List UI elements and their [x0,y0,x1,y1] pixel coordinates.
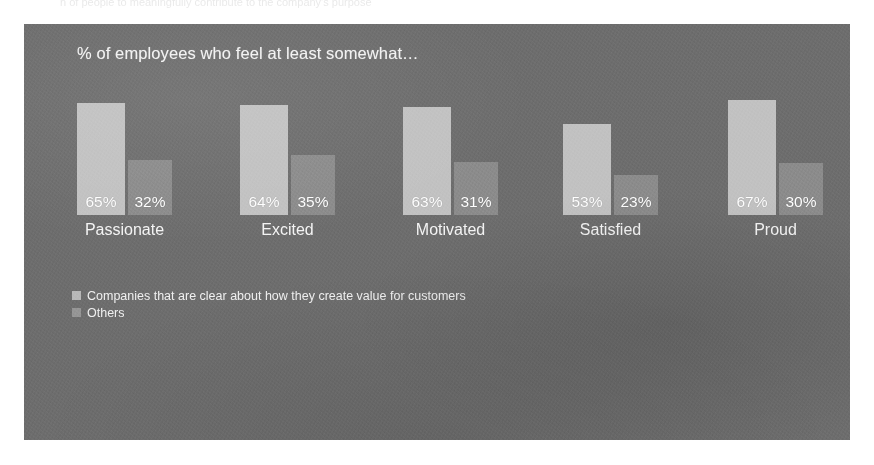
category-label: Motivated [403,221,498,239]
bar-value-label: 53% [563,193,611,211]
legend-label-series1: Companies that are clear about how they … [87,289,466,303]
chart-panel: % of employees who feel at least somewha… [24,24,850,440]
bar[interactable]: 31% [454,162,498,215]
legend-label-series2: Others [87,306,125,320]
bar[interactable]: 32% [128,160,172,215]
category-label: Satisfied [563,221,658,239]
bar-value-label: 67% [728,193,776,211]
bar[interactable]: 63% [403,107,451,215]
category-label: Proud [728,221,823,239]
legend-item-series1[interactable]: Companies that are clear about how they … [72,288,466,303]
plot-area: 65%32%Passionate64%35%Excited63%31%Motiv… [24,24,850,440]
bar[interactable]: 35% [291,155,335,215]
bar-value-label: 65% [77,193,125,211]
category-label: Passionate [77,221,172,239]
bar-value-label: 64% [240,193,288,211]
faint-top-text-strip: n of people to meaningfully contribute t… [0,0,874,18]
bar[interactable]: 65% [77,103,125,215]
faint-top-text: n of people to meaningfully contribute t… [60,0,372,8]
bar[interactable]: 30% [779,163,823,215]
bar-value-label: 23% [614,193,658,211]
bar-value-label: 30% [779,193,823,211]
bar[interactable]: 23% [614,175,658,215]
chart-title: % of employees who feel at least somewha… [77,44,419,63]
bar-value-label: 63% [403,193,451,211]
legend-swatch-icon-series1 [72,291,81,300]
category-label: Excited [240,221,335,239]
legend-swatch-icon-series2 [72,308,81,317]
bar[interactable]: 53% [563,124,611,215]
chart-legend: Companies that are clear about how they … [72,288,466,322]
bar[interactable]: 64% [240,105,288,215]
bar-value-label: 31% [454,193,498,211]
bar[interactable]: 67% [728,100,776,215]
bar-value-label: 32% [128,193,172,211]
bar-value-label: 35% [291,193,335,211]
legend-item-series2[interactable]: Others [72,305,466,320]
